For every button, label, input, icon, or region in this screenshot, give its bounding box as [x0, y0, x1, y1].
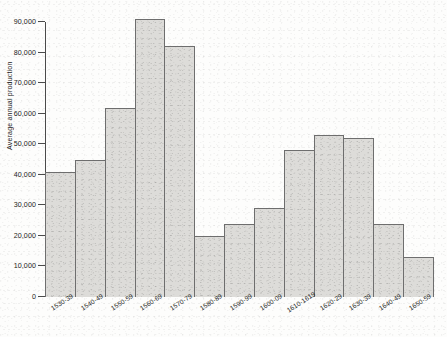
- y-axis-tick-label: 0: [32, 293, 36, 301]
- y-axis-tick: [38, 235, 45, 236]
- y-axis-tick: [38, 265, 45, 266]
- y-axis-tick-label: 40,000: [14, 171, 36, 179]
- bar: [194, 236, 225, 297]
- y-axis-tick: [38, 52, 45, 53]
- bar: [343, 138, 374, 297]
- y-axis-tick-label: 80,000: [14, 49, 36, 57]
- chart-figure: Average annual production 010,00020,0003…: [0, 0, 447, 337]
- y-axis-tick-label: 70,000: [14, 79, 36, 87]
- y-axis-tick-label: 50,000: [14, 140, 36, 148]
- y-axis-tick-label: 30,000: [14, 201, 36, 209]
- bar: [403, 257, 434, 297]
- bar: [314, 135, 345, 297]
- bar: [284, 150, 315, 297]
- x-axis-tick-labels: 1530-391540-491550-591560-691570-791580-…: [45, 299, 433, 337]
- y-axis-tick-label: 10,000: [14, 262, 36, 270]
- bar: [224, 224, 255, 297]
- bar: [105, 108, 136, 297]
- bar-series: [45, 22, 433, 297]
- y-axis-tick: [38, 113, 45, 114]
- bar: [254, 208, 285, 297]
- y-axis-tick-label: 90,000: [14, 18, 36, 26]
- y-axis-tick-label: 60,000: [14, 110, 36, 118]
- bar: [373, 224, 404, 297]
- y-axis-tick: [38, 204, 45, 205]
- bar: [135, 19, 166, 297]
- bar: [75, 160, 106, 298]
- y-axis-tick-label: 20,000: [14, 232, 36, 240]
- y-axis-tick: [38, 174, 45, 175]
- y-axis-tick: [38, 143, 45, 144]
- bar: [45, 172, 76, 297]
- bar: [164, 46, 195, 297]
- y-axis-tick: [38, 82, 45, 83]
- y-axis-tick: [38, 21, 45, 22]
- y-axis-tick: [38, 296, 45, 297]
- plot-area: 010,00020,00030,00040,00050,00060,00070,…: [45, 22, 433, 297]
